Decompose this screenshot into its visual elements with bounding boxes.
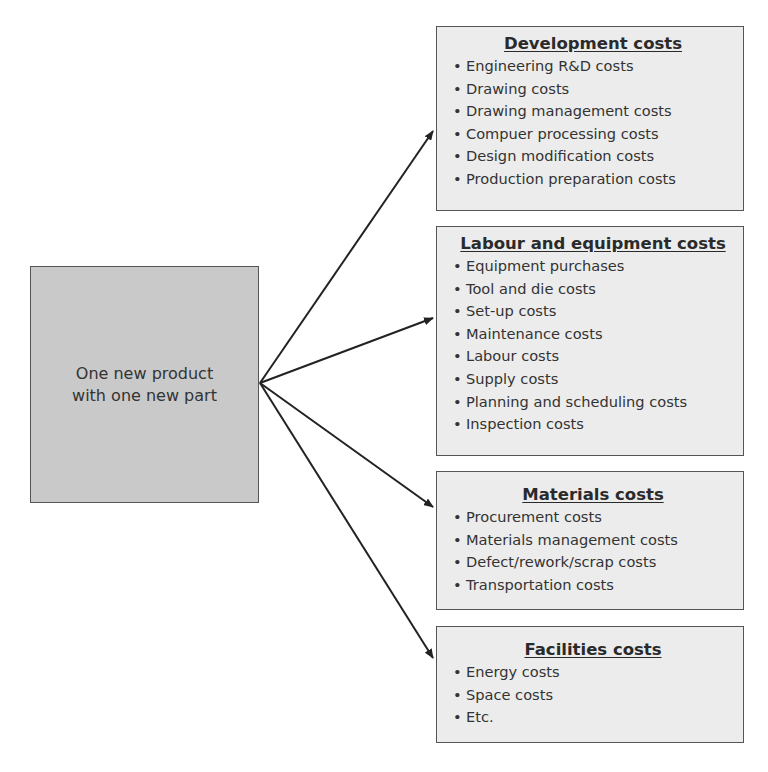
arrow-to-facilities (260, 383, 433, 658)
list-item: •Space costs (453, 684, 733, 707)
development-costs-box: Development costs •Engineering R&D costs… (436, 26, 744, 211)
list-item: •Design modification costs (453, 145, 733, 168)
list-item: •Production preparation costs (453, 168, 733, 191)
list-item: •Equipment purchases (453, 255, 733, 278)
arrow-to-labour (260, 318, 433, 383)
labour-equipment-costs-box: Labour and equipment costs •Equipment pu… (436, 226, 744, 456)
arrow-to-materials (260, 383, 433, 507)
list-item: •Defect/rework/scrap costs (453, 551, 733, 574)
category-title: Materials costs (453, 484, 733, 505)
list-item: •Engineering R&D costs (453, 55, 733, 78)
list-item: •Inspection costs (453, 413, 733, 436)
list-item: •Etc. (453, 706, 733, 729)
list-item: •Materials management costs (453, 529, 733, 552)
list-item: •Transportation costs (453, 574, 733, 597)
list-item: •Drawing management costs (453, 100, 733, 123)
category-title: Labour and equipment costs (453, 233, 733, 254)
list-item: •Set-up costs (453, 300, 733, 323)
list-item: •Planning and scheduling costs (453, 391, 733, 414)
materials-costs-box: Materials costs •Procurement costs •Mate… (436, 471, 744, 610)
category-title: Development costs (453, 33, 733, 54)
arrow-to-development (260, 131, 433, 383)
list-item: •Procurement costs (453, 506, 733, 529)
list-item: •Maintenance costs (453, 323, 733, 346)
list-item: •Drawing costs (453, 78, 733, 101)
list-item: •Labour costs (453, 345, 733, 368)
list-item: •Energy costs (453, 661, 733, 684)
source-label: One new product with one new part (72, 363, 217, 407)
source-product-box: One new product with one new part (30, 266, 259, 503)
list-item: •Tool and die costs (453, 278, 733, 301)
list-item: •Supply costs (453, 368, 733, 391)
list-item: •Compuer processing costs (453, 123, 733, 146)
facilities-costs-box: Facilities costs •Energy costs •Space co… (436, 626, 744, 743)
category-title: Facilities costs (453, 639, 733, 660)
